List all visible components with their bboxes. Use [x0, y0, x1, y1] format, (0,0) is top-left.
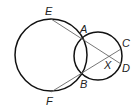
small-circle [74, 32, 122, 80]
label-f: F [46, 95, 54, 107]
label-c: C [122, 37, 130, 49]
geometry-diagram: E A C X D B F [0, 0, 137, 107]
label-b: B [80, 78, 87, 90]
large-circle [15, 19, 87, 91]
label-d: D [122, 62, 130, 74]
label-x: X [103, 59, 112, 71]
diagram-canvas: E A C X D B F [0, 0, 137, 107]
label-a: A [79, 23, 87, 35]
label-e: E [45, 5, 53, 17]
